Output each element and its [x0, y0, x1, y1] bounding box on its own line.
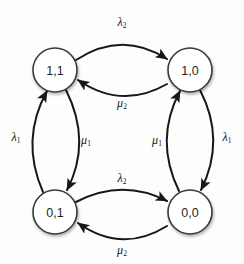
rate-subscript: 2 [123, 177, 127, 186]
edge-top-mu2 [78, 80, 167, 96]
rate-symbol: μ [116, 243, 123, 257]
edge-label-left-lambda1: λ1 [11, 130, 21, 145]
rate-symbol: μ [80, 133, 87, 147]
rate-symbol: μ [151, 133, 158, 147]
node-1-0[interactable]: 1,0 [168, 48, 212, 92]
edge-bottom-mu2 [78, 223, 167, 239]
edge-left-mu1 [66, 90, 79, 190]
edge-top-lambda2 [76, 45, 167, 60]
node-0-1[interactable]: 0,1 [33, 190, 77, 234]
edge-label-top-mu2: μ2 [116, 96, 127, 111]
rate-symbol: μ [116, 96, 123, 110]
edge-label-top-lambda2: λ2 [117, 15, 127, 30]
rate-subscript: 2 [123, 21, 127, 30]
rate-subscript: 1 [228, 136, 232, 145]
node-label-0-1: 0,1 [46, 206, 63, 220]
rate-subscript: 1 [87, 139, 91, 148]
rate-subscript: 2 [123, 102, 127, 111]
edge-label-bottom-mu2: μ2 [116, 243, 127, 258]
node-label-1-1: 1,1 [46, 64, 63, 78]
edge-label-bottom-lambda2: λ2 [117, 171, 127, 186]
node-0-0[interactable]: 0,0 [168, 190, 212, 234]
state-transition-diagram: 1,1 1,0 0,1 0,0 λ2 μ2 λ1 μ1 μ1 [0, 0, 244, 264]
edge-bottom-lambda2 [76, 190, 167, 202]
node-label-1-0: 1,0 [181, 64, 198, 78]
node-label-0-0: 0,0 [181, 206, 198, 220]
rate-subscript: 1 [158, 139, 162, 148]
rate-subscript: 1 [17, 136, 21, 145]
edge-label-right-mu1: μ1 [151, 133, 162, 148]
edge-right-lambda1 [200, 90, 213, 190]
rate-subscript: 2 [123, 249, 127, 258]
node-1-1[interactable]: 1,1 [33, 48, 77, 92]
edge-label-left-mu1: μ1 [80, 133, 91, 148]
edge-right-mu1 [167, 91, 180, 191]
diagram-canvas: 1,1 1,0 0,1 0,0 λ2 μ2 λ1 μ1 μ1 [0, 0, 244, 264]
edge-label-right-lambda1: λ1 [222, 130, 232, 145]
edge-left-lambda1 [32, 91, 47, 192]
